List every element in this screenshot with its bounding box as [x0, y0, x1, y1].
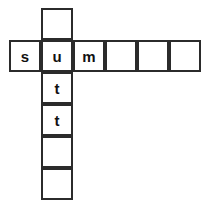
cell-c1-r5[interactable]: [41, 168, 73, 200]
cell-c3-r1[interactable]: [105, 40, 137, 72]
cell-letter: t: [55, 113, 60, 128]
cell-c4-r1[interactable]: [137, 40, 169, 72]
cell-c1-r1[interactable]: u: [41, 40, 73, 72]
cell-c1-r0[interactable]: [41, 8, 73, 40]
cell-letter: m: [82, 49, 95, 64]
cell-letter: u: [52, 49, 61, 64]
cell-c1-r4[interactable]: [41, 136, 73, 168]
cell-c1-r2[interactable]: t: [41, 72, 73, 104]
cell-c0-r1[interactable]: s: [9, 40, 41, 72]
cell-c2-r1[interactable]: m: [73, 40, 105, 72]
cell-c1-r3[interactable]: t: [41, 104, 73, 136]
cell-c5-r1[interactable]: [169, 40, 201, 72]
cell-letter: s: [21, 49, 29, 64]
crossword-grid: sumtt: [0, 0, 212, 210]
cell-letter: t: [55, 81, 60, 96]
